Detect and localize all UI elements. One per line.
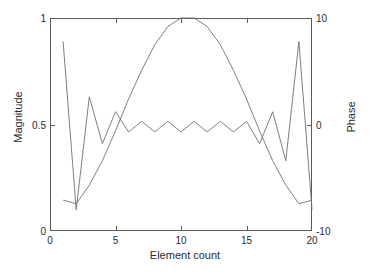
y-axis-right-title: Phase: [345, 67, 357, 167]
chart-figure: 00.51 -10010 05101520 Element count Magn…: [0, 0, 370, 275]
tick-mark: [247, 19, 248, 23]
x-axis-tick-label: 15: [241, 235, 252, 246]
y-axis-right-tick-label: 0: [316, 119, 322, 130]
y-axis-left-tick-label: 1: [20, 13, 46, 24]
series-phase-line: [63, 41, 312, 209]
chart-series-layer: [50, 18, 312, 231]
y-axis-left-tick-label: 0: [20, 226, 46, 237]
tick-mark: [116, 226, 117, 230]
tick-mark: [307, 125, 311, 126]
tick-mark: [247, 226, 248, 230]
x-axis-tick-label: 10: [175, 235, 186, 246]
tick-mark: [116, 19, 117, 23]
series-magnitude-line: [63, 18, 312, 204]
y-axis-left-title: Magnitude: [12, 67, 24, 167]
series-group: [63, 18, 312, 210]
x-axis-tick-label: 5: [113, 235, 119, 246]
x-axis-title: Element count: [0, 249, 370, 261]
x-axis-tick-label: 0: [47, 235, 53, 246]
tick-mark: [181, 19, 182, 23]
tick-mark: [51, 125, 55, 126]
y-axis-right-tick-label: -10: [316, 226, 330, 237]
x-axis-tick-label: 20: [306, 235, 317, 246]
tick-mark: [181, 226, 182, 230]
y-axis-right-tick-label: 10: [316, 13, 327, 24]
